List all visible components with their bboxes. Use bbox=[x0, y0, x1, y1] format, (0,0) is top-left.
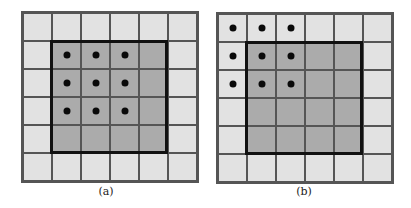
grid-cell bbox=[139, 97, 168, 125]
panel-b: (b) bbox=[205, 0, 410, 208]
grid-cell bbox=[81, 97, 110, 125]
grid-cell bbox=[305, 98, 334, 126]
grid-cell bbox=[218, 98, 247, 126]
grid-cell bbox=[23, 97, 52, 125]
panel-a: (a) bbox=[0, 0, 205, 208]
grid-cell bbox=[363, 70, 392, 98]
grid-cell bbox=[110, 69, 139, 97]
dot-marker-icon bbox=[92, 52, 99, 59]
grid-cell bbox=[110, 153, 139, 181]
grid-cell bbox=[363, 126, 392, 154]
grid-cell bbox=[23, 125, 52, 153]
grid-cell bbox=[334, 14, 363, 42]
grid-cell bbox=[218, 126, 247, 154]
grid-cell bbox=[276, 98, 305, 126]
grid-cell bbox=[363, 154, 392, 182]
dot-marker-icon bbox=[229, 81, 236, 88]
grid-cell bbox=[276, 14, 305, 42]
grid-cell bbox=[139, 41, 168, 69]
grid-cell bbox=[218, 154, 247, 182]
grid-cell bbox=[334, 154, 363, 182]
grid-cell bbox=[52, 153, 81, 181]
panel-label-b: (b) bbox=[284, 185, 324, 198]
grid-cell bbox=[110, 97, 139, 125]
dot-marker-icon bbox=[258, 25, 265, 32]
grid-cell bbox=[52, 13, 81, 41]
grid-cell bbox=[81, 153, 110, 181]
dot-marker-icon bbox=[287, 81, 294, 88]
grid-cell bbox=[276, 42, 305, 70]
grid-cell bbox=[23, 41, 52, 69]
grid-cell bbox=[110, 41, 139, 69]
dot-marker-icon bbox=[121, 52, 128, 59]
dot-marker-icon bbox=[287, 53, 294, 60]
grid-cell bbox=[168, 125, 197, 153]
dot-marker-icon bbox=[258, 53, 265, 60]
grid-cell bbox=[168, 69, 197, 97]
grid-cell bbox=[363, 98, 392, 126]
dot-marker-icon bbox=[229, 53, 236, 60]
dot-marker-icon bbox=[92, 108, 99, 115]
grid-cell bbox=[363, 42, 392, 70]
grid-cell bbox=[305, 126, 334, 154]
grid-cell bbox=[23, 69, 52, 97]
grid-cell bbox=[52, 69, 81, 97]
grid-cell bbox=[168, 153, 197, 181]
grid-cell bbox=[247, 154, 276, 182]
grid-cell bbox=[139, 69, 168, 97]
grid-cell bbox=[247, 14, 276, 42]
grid-cell bbox=[305, 154, 334, 182]
dot-marker-icon bbox=[258, 81, 265, 88]
grid-cell bbox=[81, 41, 110, 69]
grid-cell bbox=[363, 14, 392, 42]
grid-cell bbox=[247, 42, 276, 70]
panel-label-a: (a) bbox=[86, 185, 126, 198]
grid-cell bbox=[110, 13, 139, 41]
dot-marker-icon bbox=[63, 80, 70, 87]
grid-cell bbox=[305, 14, 334, 42]
grid-cell bbox=[139, 13, 168, 41]
grid-cell bbox=[305, 42, 334, 70]
dot-marker-icon bbox=[92, 80, 99, 87]
dot-marker-icon bbox=[121, 80, 128, 87]
grid-cell bbox=[81, 13, 110, 41]
grid-cell bbox=[334, 98, 363, 126]
grid-cell bbox=[139, 125, 168, 153]
grid-cell bbox=[168, 13, 197, 41]
dot-marker-icon bbox=[229, 25, 236, 32]
grid-cell bbox=[276, 154, 305, 182]
grid-cell bbox=[81, 125, 110, 153]
grid-cell bbox=[247, 70, 276, 98]
grid-cell bbox=[23, 13, 52, 41]
grid-cell bbox=[334, 42, 363, 70]
grid-cell bbox=[218, 42, 247, 70]
grid-cell bbox=[139, 153, 168, 181]
grid-cell bbox=[247, 126, 276, 154]
grid-cell bbox=[247, 98, 276, 126]
dot-marker-icon bbox=[121, 108, 128, 115]
grid-b bbox=[216, 12, 394, 184]
dot-marker-icon bbox=[287, 25, 294, 32]
grid-cell bbox=[276, 70, 305, 98]
grid-cell bbox=[276, 126, 305, 154]
grid-cell bbox=[168, 41, 197, 69]
grid-cell bbox=[52, 125, 81, 153]
grid-cell bbox=[334, 70, 363, 98]
grid-cell bbox=[305, 70, 334, 98]
grid-cell bbox=[110, 125, 139, 153]
dot-marker-icon bbox=[63, 52, 70, 59]
grid-cell bbox=[23, 153, 52, 181]
grid-cell bbox=[52, 41, 81, 69]
grid-cell bbox=[218, 14, 247, 42]
grid-cell bbox=[81, 69, 110, 97]
grid-cell bbox=[334, 126, 363, 154]
dot-marker-icon bbox=[63, 108, 70, 115]
grid-cell bbox=[168, 97, 197, 125]
grid-a bbox=[21, 11, 199, 183]
grid-cell bbox=[218, 70, 247, 98]
grid-cell bbox=[52, 97, 81, 125]
